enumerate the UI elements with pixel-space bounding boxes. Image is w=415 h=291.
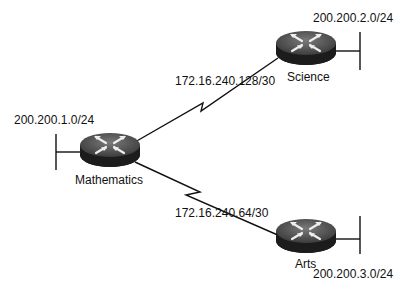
lan-label-mathematics: 200.200.1.0/24 xyxy=(14,113,94,127)
lan-segment-science xyxy=(334,32,360,70)
router-icon-arts xyxy=(276,219,336,253)
serial-link-math-science xyxy=(135,58,278,142)
lan-segment-arts xyxy=(334,216,360,254)
lan-segment-mathematics xyxy=(56,134,82,170)
serial-link-math-arts xyxy=(135,162,280,236)
network-diagram xyxy=(0,0,415,291)
router-icon-science xyxy=(276,31,336,65)
router-icon-mathematics xyxy=(80,133,140,167)
router-label-mathematics: Mathematics xyxy=(75,173,143,187)
lan-label-arts: 200.200.3.0/24 xyxy=(313,267,393,281)
lan-label-science: 200.200.2.0/24 xyxy=(313,11,393,25)
router-label-science: Science xyxy=(287,70,330,84)
link-label-math-science: 172.16.240.128/30 xyxy=(175,74,275,88)
link-label-math-arts: 172.16.240.64/30 xyxy=(175,206,268,220)
